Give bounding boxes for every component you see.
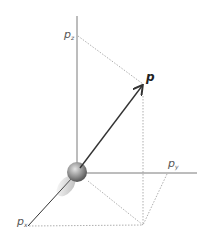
axes <box>28 16 197 226</box>
label-pz: pz <box>64 29 74 41</box>
origin-projection-line <box>88 181 143 225</box>
momentum-vector-arrow <box>80 86 142 168</box>
projection-lines <box>29 36 167 226</box>
label-py-sub: y <box>175 163 179 170</box>
vector-label-p: p <box>146 71 155 83</box>
label-pz-main: p <box>64 28 71 41</box>
label-px-sub: x <box>24 221 28 228</box>
label-pz-sub: z <box>71 34 74 41</box>
particle-sphere <box>67 162 87 182</box>
momentum-diagram <box>0 0 207 240</box>
pz-projection-line <box>78 36 143 84</box>
label-py-main: p <box>168 157 175 170</box>
label-px-main: p <box>17 215 24 228</box>
label-px: px <box>17 216 28 228</box>
label-py: py <box>168 158 179 170</box>
px-projection-line <box>29 225 143 226</box>
py-projection-line <box>143 174 167 225</box>
